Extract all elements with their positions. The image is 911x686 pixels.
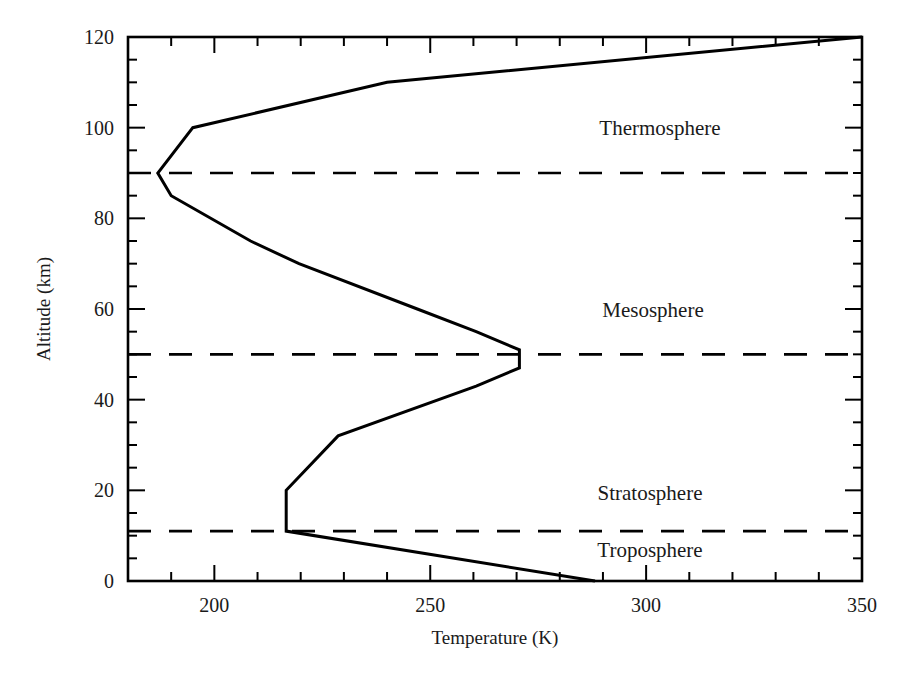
y-tick-label: 0 <box>104 570 114 592</box>
y-axis-label: Altitude (km) <box>33 257 55 361</box>
y-tick-label: 120 <box>84 26 114 48</box>
temperature-altitude-chart: 200250300350020406080100120 Temperature … <box>0 0 911 686</box>
tick-labels: 200250300350020406080100120 <box>84 26 877 616</box>
region-label-thermosphere: Thermosphere <box>599 116 720 140</box>
y-tick-label: 60 <box>94 298 114 320</box>
y-tick-label: 100 <box>84 117 114 139</box>
x-tick-label: 200 <box>199 594 229 616</box>
region-label-stratosphere: Stratosphere <box>598 481 703 505</box>
y-tick-label: 80 <box>94 207 114 229</box>
x-tick-label: 300 <box>631 594 661 616</box>
y-tick-label: 40 <box>94 389 114 411</box>
region-label-troposphere: Troposphere <box>597 538 702 562</box>
x-axis-label: Temperature (K) <box>432 627 559 649</box>
plot-area <box>128 37 862 581</box>
x-tick-label: 250 <box>415 594 445 616</box>
region-label-mesosphere: Mesosphere <box>602 298 703 322</box>
x-tick-label: 350 <box>847 594 877 616</box>
temperature-profile-line <box>158 37 862 581</box>
y-tick-label: 20 <box>94 479 114 501</box>
